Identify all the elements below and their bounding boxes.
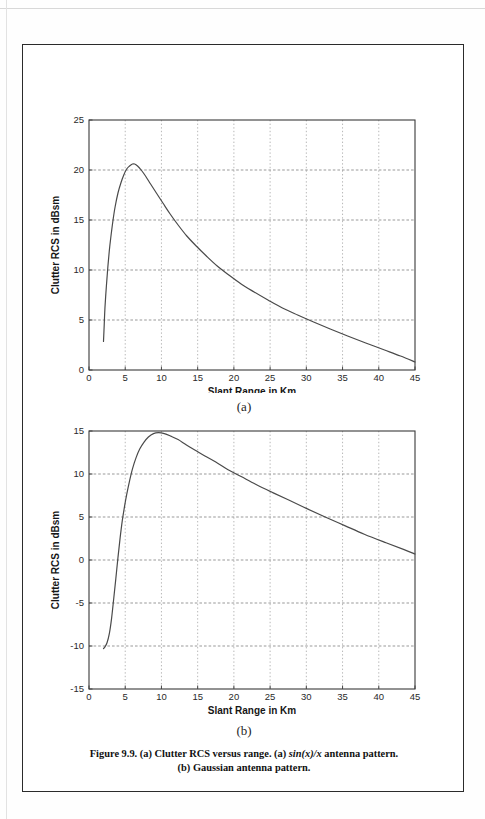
x-axis-tick-label: 15: [192, 372, 203, 383]
chart-b-sublabel: (b): [23, 723, 465, 739]
y-axis-tick-label: 10: [73, 264, 84, 275]
x-axis-tick-label: 35: [337, 372, 348, 383]
y-axis-tick-label: -5: [76, 597, 84, 608]
x-axis-tick-label: 10: [156, 691, 167, 702]
y-axis-title: Clutter RCS in dBsm: [50, 511, 61, 609]
data-series-line: [103, 433, 415, 649]
y-axis-tick-label: 5: [79, 314, 84, 325]
x-axis-tick-label: 40: [373, 372, 384, 383]
x-axis-tick-label: 5: [123, 372, 128, 383]
data-series-line: [103, 164, 415, 362]
chart-b-plot: 051015202530354045-15-10-5051015Slant Ra…: [23, 417, 465, 717]
y-axis-tick-label: 15: [73, 214, 84, 225]
x-axis-tick-label: 35: [337, 691, 348, 702]
x-axis-tick-label: 5: [123, 691, 128, 702]
x-axis-tick-label: 25: [265, 372, 276, 383]
x-axis-title: Slant Range in Km: [208, 705, 296, 716]
y-axis-tick-label: 25: [73, 114, 84, 125]
chart-a-sublabel: (a): [23, 399, 465, 415]
y-axis-tick-label: 5: [79, 511, 84, 522]
scan-edge-top: [0, 8, 485, 9]
x-axis-tick-label: 0: [86, 691, 91, 702]
caption-line1-part1: Figure 9.9. (a) Clutter RCS versus range…: [90, 748, 289, 759]
x-axis-tick-label: 30: [301, 691, 312, 702]
x-axis-tick-label: 15: [192, 691, 203, 702]
caption-line2: (b) Gaussian antenna pattern.: [178, 762, 311, 773]
x-axis-tick-label: 30: [301, 372, 312, 383]
x-axis-title: Slant Range in Km: [208, 386, 296, 393]
y-axis-tick-label: 10: [73, 468, 84, 479]
x-axis-tick-label: 20: [229, 691, 240, 702]
y-axis-title: Clutter RCS in dBsm: [50, 196, 61, 294]
caption-line1-italic: sin(x)/x: [289, 748, 322, 759]
x-axis-tick-label: 20: [229, 372, 240, 383]
x-axis-tick-label: 45: [410, 691, 421, 702]
chart-a-plot: 0510152025303540450510152025Slant Range …: [23, 93, 465, 393]
y-axis-tick-label: 0: [79, 364, 84, 375]
chart-a-container: 0510152025303540450510152025Slant Range …: [23, 93, 465, 393]
y-axis-tick-label: -10: [70, 640, 84, 651]
x-axis-tick-label: 45: [410, 372, 421, 383]
figure-frame: 0510152025303540450510152025Slant Range …: [22, 44, 464, 792]
x-axis-tick-label: 0: [86, 372, 91, 383]
y-axis-tick-label: -15: [70, 683, 84, 694]
y-axis-tick-label: 15: [73, 425, 84, 436]
figure-caption: Figure 9.9. (a) Clutter RCS versus range…: [47, 747, 441, 776]
y-axis-tick-label: 0: [79, 554, 84, 565]
caption-line1-part2: antenna pattern.: [322, 748, 399, 759]
x-axis-tick-label: 25: [265, 691, 276, 702]
x-axis-tick-label: 10: [156, 372, 167, 383]
x-axis-tick-label: 40: [373, 691, 384, 702]
y-axis-tick-label: 20: [73, 164, 84, 175]
plot-axes-frame: [89, 120, 415, 370]
chart-b-container: 051015202530354045-15-10-5051015Slant Ra…: [23, 417, 465, 717]
scan-edge-left: [6, 0, 7, 819]
